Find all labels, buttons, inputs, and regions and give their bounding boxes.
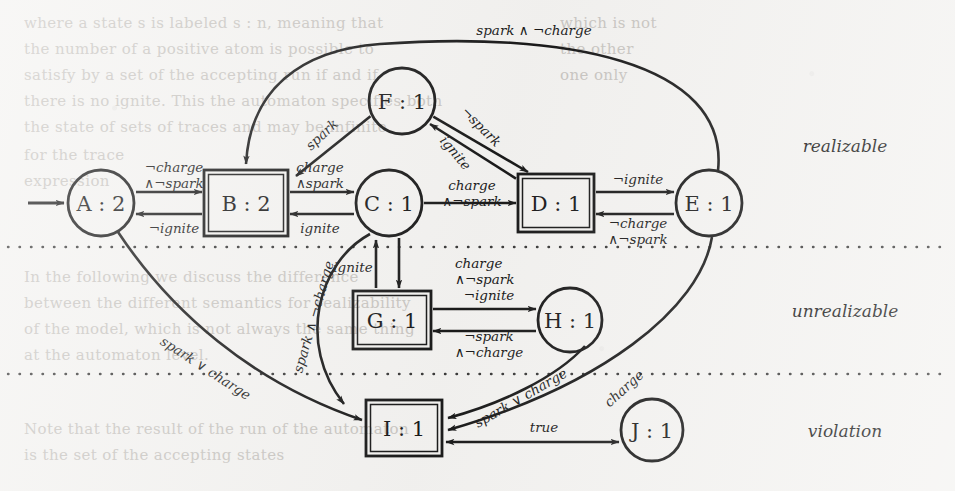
transition-label-line: ∧¬charge bbox=[455, 344, 524, 360]
transition-label-line: spark ∧ ¬charge bbox=[476, 22, 591, 38]
transition-label-D-E: ¬ignite bbox=[613, 171, 664, 187]
transition-label-C-G: charge∧¬spark bbox=[455, 255, 514, 287]
transition-label-line: ¬spark bbox=[464, 328, 514, 344]
transition-label-E-D: ¬charge∧¬spark bbox=[608, 215, 667, 247]
transition-label-G-C: ignite bbox=[333, 259, 372, 275]
state-node-B[interactable]: B : 2 bbox=[204, 170, 288, 236]
states-layer: A : 2B : 2C : 1D : 1E : 1F : 1G : 1H : 1… bbox=[68, 68, 742, 461]
zone-labels-layer: realizableunrealizableviolation bbox=[792, 136, 899, 441]
transition-label-line: true bbox=[530, 419, 559, 435]
transition-label-line: ¬charge bbox=[609, 215, 668, 231]
state-label-J: J : 1 bbox=[629, 419, 673, 443]
transition-label-line: ignite bbox=[300, 220, 339, 236]
state-node-I[interactable]: I : 1 bbox=[366, 400, 442, 456]
state-label-I: I : 1 bbox=[383, 417, 425, 441]
state-node-A[interactable]: A : 2 bbox=[68, 170, 134, 236]
transition-E-B bbox=[246, 41, 719, 171]
state-node-F[interactable]: F : 1 bbox=[369, 68, 435, 134]
state-label-A: A : 2 bbox=[76, 192, 126, 216]
state-label-F: F : 1 bbox=[378, 90, 426, 114]
transition-label-H-G: ¬spark∧¬charge bbox=[455, 328, 524, 360]
transition-label-C-I: spark ∧ ¬charge bbox=[290, 259, 337, 374]
zone-label-realizable: realizable bbox=[803, 136, 888, 156]
transition-label-line: ¬ignite bbox=[613, 171, 664, 187]
transition-label-line: ∧¬spark bbox=[455, 271, 514, 287]
zone-label-violation: violation bbox=[808, 421, 882, 441]
state-label-E: E : 1 bbox=[684, 192, 733, 216]
transition-label-E-I: charge bbox=[601, 366, 647, 410]
transition-label-F-B: spark bbox=[302, 115, 341, 153]
state-node-H[interactable]: H : 1 bbox=[538, 288, 602, 352]
transition-label-B-A: ¬ignite bbox=[149, 220, 200, 236]
transition-label-line: ∧¬spark bbox=[442, 193, 501, 209]
state-label-H: H : 1 bbox=[544, 309, 596, 333]
transition-label-A-B: ¬charge∧¬spark bbox=[144, 159, 203, 191]
transition-label-line: spark ∨ charge bbox=[158, 333, 254, 403]
transition-label-G-H: ¬ignite bbox=[464, 287, 515, 303]
state-node-C[interactable]: C : 1 bbox=[356, 170, 422, 236]
transition-label-line: charge bbox=[455, 255, 502, 271]
state-node-D[interactable]: D : 1 bbox=[518, 174, 594, 232]
transition-label-line: ∧¬spark bbox=[144, 175, 203, 191]
state-label-G: G : 1 bbox=[367, 309, 418, 333]
diagram-canvas: where a state s is labeled s : n, meanin… bbox=[0, 0, 955, 491]
transition-label-I-J: true bbox=[530, 419, 559, 435]
transition-label-line: ∧spark bbox=[296, 175, 344, 191]
state-node-G[interactable]: G : 1 bbox=[353, 291, 431, 349]
transition-label-line: charge bbox=[448, 177, 495, 193]
transition-label-B-C: ignite bbox=[300, 220, 339, 236]
transition-label-E-B: spark ∧ ¬charge bbox=[476, 22, 591, 38]
transition-label-C-D: charge∧¬spark bbox=[442, 177, 501, 209]
transition-label-line: ¬ignite bbox=[464, 287, 515, 303]
transition-label-line: ¬ignite bbox=[149, 220, 200, 236]
zone-label-unrealizable: unrealizable bbox=[792, 301, 899, 321]
transition-label-line: ¬charge bbox=[145, 159, 204, 175]
state-label-D: D : 1 bbox=[531, 192, 582, 216]
transition-label-line: spark bbox=[302, 115, 341, 153]
transition-label-line: charge bbox=[296, 159, 343, 175]
transition-label-line: ignite bbox=[333, 259, 372, 275]
state-label-C: C : 1 bbox=[364, 192, 414, 216]
state-transition-diagram: A : 2B : 2C : 1D : 1E : 1F : 1G : 1H : 1… bbox=[0, 0, 955, 491]
transition-label-A-I: spark ∨ charge bbox=[158, 333, 254, 403]
state-node-E[interactable]: E : 1 bbox=[676, 170, 742, 236]
transition-label-line: charge bbox=[601, 366, 647, 410]
transition-label-line: ∧¬spark bbox=[608, 231, 667, 247]
transition-label-F-D: ¬spark bbox=[458, 103, 504, 149]
transition-D-F bbox=[430, 124, 516, 179]
state-node-J[interactable]: J : 1 bbox=[621, 399, 683, 461]
transition-label-C-B: charge∧spark bbox=[296, 159, 344, 191]
state-label-B: B : 2 bbox=[221, 192, 270, 216]
transition-label-line: ¬spark bbox=[458, 103, 504, 149]
transition-label-line: spark ∧ ¬charge bbox=[290, 259, 337, 374]
